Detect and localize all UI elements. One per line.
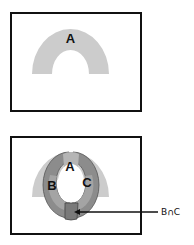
region-a-label: A: [65, 159, 75, 174]
panel-top: A: [11, 13, 141, 111]
region-c-label: C: [82, 175, 92, 190]
panel-top-frame: [11, 13, 141, 111]
venn-diagram-figure: A A B C B∩C: [0, 0, 194, 245]
callout-label: B∩C: [161, 207, 180, 217]
region-b-label: B: [47, 178, 56, 193]
panel-bottom: A B C B∩C: [11, 137, 180, 234]
region-a-label: A: [66, 31, 76, 46]
